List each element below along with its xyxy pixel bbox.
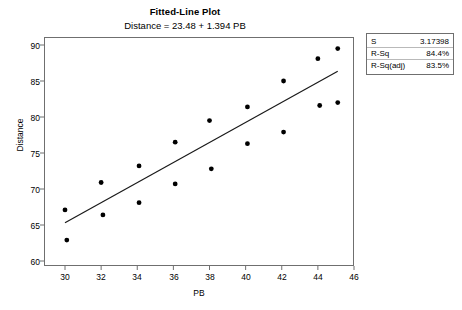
stat-row: R-Sq(adj) 83.5% [367,59,453,71]
x-tick-label: 40 [234,272,258,282]
data-point [137,200,142,205]
x-tick-label: 30 [53,272,77,282]
stat-value: 3.17398 [420,36,449,47]
x-tick-label: 34 [125,272,149,282]
stat-value: 83.5% [426,60,449,71]
data-point [101,213,106,218]
data-point [99,180,104,185]
x-tick-label: 32 [89,272,113,282]
y-tick-label: 65 [14,221,40,231]
x-tick-label: 44 [306,272,330,282]
data-point [173,182,178,187]
y-tick-label: 85 [14,77,40,87]
data-point [245,105,250,110]
data-point [281,79,286,84]
stat-value: 84.4% [426,48,449,59]
y-tick-label: 80 [14,113,40,123]
x-tick-label: 46 [342,272,366,282]
stat-row: S 3.17398 [367,36,453,47]
stat-row: R-Sq 84.4% [367,47,453,59]
data-point [64,238,69,243]
x-axis-label: PB [44,288,354,298]
data-point [315,56,320,61]
data-point [317,103,322,108]
data-point [335,46,340,51]
data-point [173,140,178,145]
data-point [281,130,286,135]
stat-key: R-Sq [371,48,389,59]
y-tick-label: 90 [14,41,40,51]
statistics-legend-box: S 3.17398 R-Sq 84.4% R-Sq(adj) 83.5% [366,33,454,75]
data-point [335,100,340,105]
data-point [209,166,214,171]
x-tick-label: 42 [270,272,294,282]
data-point [137,164,142,169]
x-tick-label: 36 [162,272,186,282]
data-point [245,141,250,146]
data-point [63,207,68,212]
x-tick-label: 38 [198,272,222,282]
y-axis-label: Distance [15,100,25,170]
y-tick-label: 70 [14,185,40,195]
data-point [207,118,212,123]
y-tick-label: 60 [14,257,40,267]
chart-page: Fitted-Line Plot Distance = 23.48 + 1.39… [0,0,462,310]
stat-key: R-Sq(adj) [371,60,405,71]
y-tick-label: 75 [14,149,40,159]
stat-key: S [371,36,376,47]
